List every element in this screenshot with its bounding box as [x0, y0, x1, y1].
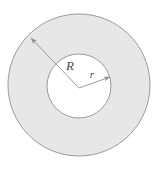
annulus-svg-canvas: R r: [0, 0, 159, 177]
annulus-figure: R r: [0, 0, 159, 177]
outer-radius-label: R: [65, 58, 74, 73]
inner-circle: [47, 54, 111, 118]
inner-radius-label: r: [90, 68, 95, 80]
